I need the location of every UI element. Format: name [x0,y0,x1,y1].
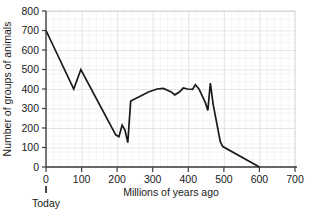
y-tick-label: 800 [21,5,39,17]
y-tick-labels: 0 100 200 300 400 500 600 700 800 [21,5,39,173]
y-tick-label: 700 [21,24,39,36]
x-tick-label: 400 [180,173,198,185]
y-axis-title: Number of groups of animals [1,22,13,157]
x-tick-label: 700 [286,173,304,185]
y-tick-label: 100 [21,141,39,153]
plot-grid [46,11,295,167]
today-marker: Today [32,186,61,209]
y-tick-label: 400 [21,83,39,95]
x-axis-title: Millions of years ago [123,186,219,198]
y-tick-label: 0 [33,161,39,173]
x-tick-label: 500 [215,173,233,185]
y-tick-label: 200 [21,122,39,134]
y-axis [42,11,46,167]
x-axis [46,167,297,172]
y-tick-label: 300 [21,102,39,114]
x-tick-label: 0 [43,173,49,185]
today-label: Today [32,197,61,209]
x-tick-label: 300 [144,173,162,185]
chart-figure: 0 100 200 300 400 500 600 700 800 Number… [0,0,312,212]
x-tick-label: 200 [108,173,126,185]
x-tick-labels: 0 100 200 300 400 500 600 700 [43,173,304,185]
x-tick-label: 600 [251,173,269,185]
y-tick-label: 500 [21,63,39,75]
x-tick-label: 100 [73,173,91,185]
line-chart: 0 100 200 300 400 500 600 700 800 Number… [0,0,312,212]
y-tick-label: 600 [21,44,39,56]
